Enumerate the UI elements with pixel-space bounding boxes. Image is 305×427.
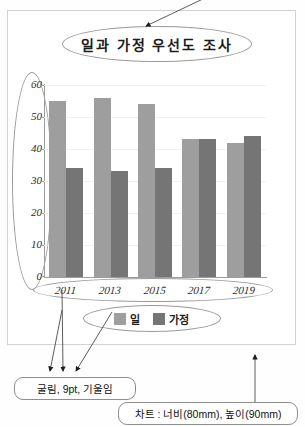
x-tick-label: 2013 xyxy=(98,284,121,296)
bar-일-2017 xyxy=(182,139,199,277)
bar-group-2019 xyxy=(224,85,264,277)
y-tick-label: 30 xyxy=(31,174,42,186)
chart-title: 일과 가정 우선도 조사 xyxy=(62,26,252,62)
bar-가정-2017 xyxy=(199,139,216,277)
bar-일-2013 xyxy=(94,98,111,277)
x-tick-label: 2015 xyxy=(143,284,166,296)
bar-가정-2011 xyxy=(66,168,83,277)
chart-legend: 일 가정 xyxy=(90,308,212,330)
y-tick-label: 20 xyxy=(31,206,42,218)
screenshot-root: 일과 가정 우선도 조사 60 50 40 30 20 10 0 xyxy=(0,0,305,427)
chart-title-text: 일과 가정 우선도 조사 xyxy=(62,26,252,62)
bar-가정-2015 xyxy=(155,168,172,277)
plot-area xyxy=(44,85,266,277)
bar-group-2015 xyxy=(135,85,175,277)
legend-item-work: 일 xyxy=(114,311,140,327)
x-tick-label: 2019 xyxy=(232,284,255,296)
legend-item-family: 가정 xyxy=(153,311,189,327)
y-axis-labels: 60 50 40 30 20 10 0 xyxy=(14,76,42,286)
y-tick-label: 50 xyxy=(31,110,42,122)
bar-가정-2013 xyxy=(111,171,128,277)
bar-group-2017 xyxy=(179,85,219,277)
legend-swatch-icon xyxy=(153,313,165,325)
bar-group-2011 xyxy=(46,85,86,277)
x-axis-labels: 2011 2013 2015 2017 2019 xyxy=(44,280,266,300)
y-tick-label: 40 xyxy=(31,142,42,154)
bar-일-2015 xyxy=(138,104,155,277)
chart-size-callout-box: 차트 : 너비(80mm), 높이(90mm) xyxy=(118,402,298,425)
x-tick-label: 2017 xyxy=(188,284,211,296)
bar-group-2013 xyxy=(91,85,131,277)
bar-가정-2019 xyxy=(244,136,261,277)
font-callout-box: 굴림, 9pt, 기울임 xyxy=(14,377,136,400)
bar-일-2019 xyxy=(227,143,244,277)
legend-swatch-icon xyxy=(114,313,126,325)
font-callout-text: 굴림, 9pt, 기울임 xyxy=(37,381,113,396)
legend-label: 일 xyxy=(130,311,140,327)
chart-size-callout-text: 차트 : 너비(80mm), 높이(90mm) xyxy=(135,406,282,421)
y-tick-label: 60 xyxy=(31,78,42,90)
x-tick-label: 2011 xyxy=(55,284,77,296)
bar-series-container xyxy=(44,85,266,277)
y-tick-label: 10 xyxy=(31,238,42,250)
legend-label: 가정 xyxy=(169,311,189,327)
bar-일-2011 xyxy=(49,101,66,277)
